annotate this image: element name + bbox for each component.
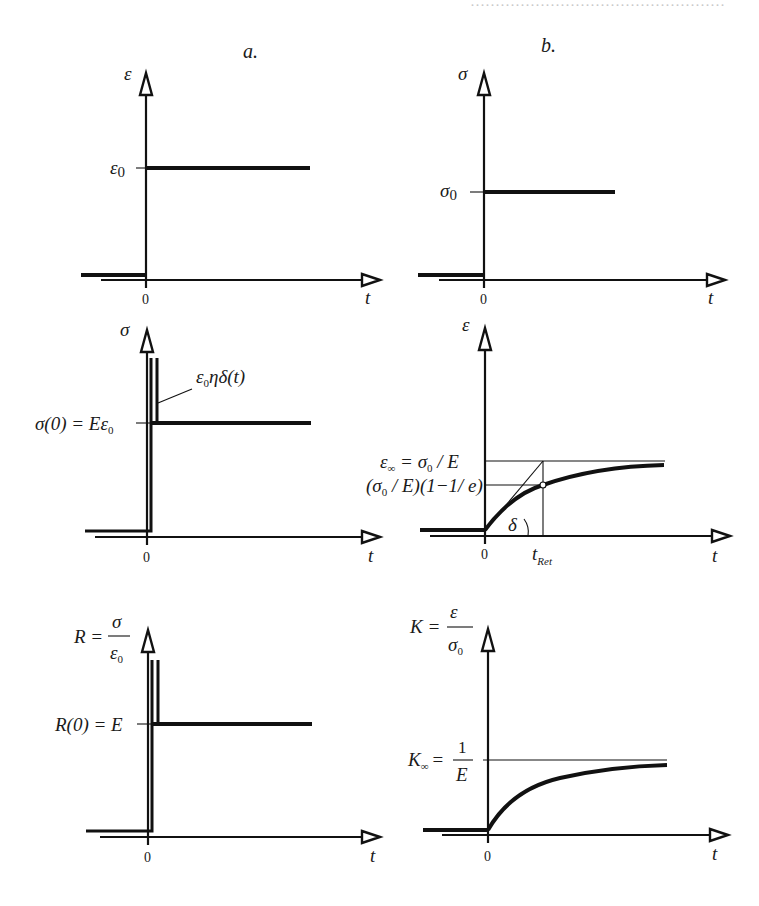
y-axis-arrow-icon xyxy=(482,629,494,651)
panel-b3-creep-compliance: K = ε σ0 K∞= 1 E 0 t xyxy=(407,601,728,864)
y-axis-label-left: K = xyxy=(409,616,440,637)
origin-label: 0 xyxy=(144,850,151,865)
x-axis-label: t xyxy=(365,287,371,308)
asymptote-label: ε∞ = σ0 / E xyxy=(380,451,459,474)
x-axis-arrow-icon xyxy=(362,531,380,543)
level-label: σ0 xyxy=(440,180,457,203)
compliance-curve xyxy=(488,765,667,830)
impulse-label: ε0ηδ(t) xyxy=(196,366,245,389)
y-axis-arrow-icon xyxy=(140,73,152,95)
x-axis-arrow-icon xyxy=(712,530,730,542)
y-axis-label: σ xyxy=(120,319,130,340)
y-axis-label-numerator: ε xyxy=(450,601,458,622)
x-axis-label: t xyxy=(708,287,714,308)
column-label-b: b. xyxy=(541,34,556,56)
asymptote-numerator: 1 xyxy=(458,738,467,757)
impulse-spike-left xyxy=(85,358,151,531)
impulse-leader-line xyxy=(158,389,192,403)
y-axis-label-denominator: σ0 xyxy=(448,634,463,657)
impulse-spike-left xyxy=(86,660,152,831)
y-axis-arrow-icon xyxy=(142,630,154,652)
panel-b1-stress-input: σ σ0 0 t xyxy=(418,63,725,308)
x-axis-label: t xyxy=(712,843,718,864)
y-axis-label-denominator: ε0 xyxy=(110,642,124,665)
level-label: R(0) = E xyxy=(54,714,123,736)
retardation-level-label: (σ0 / E)(1−1/ e) xyxy=(366,475,483,498)
y-axis-arrow-icon xyxy=(478,73,490,95)
y-axis-label-left: R = xyxy=(73,626,103,647)
origin-label: 0 xyxy=(143,550,150,565)
x-axis-arrow-icon xyxy=(362,831,380,843)
angle-arc xyxy=(524,519,528,536)
level-label: ε0 xyxy=(110,157,125,180)
x-axis-label: t xyxy=(370,845,376,866)
panel-a2-stress-response: σ σ(0) = Eε0 ε0ηδ(t) 0 t xyxy=(35,319,380,566)
origin-label: 0 xyxy=(481,547,488,562)
angle-label: δ xyxy=(508,514,518,535)
impulse-spike-right-and-plateau xyxy=(158,660,312,724)
y-axis-label: σ xyxy=(458,63,468,84)
panel-b2-creep-response: ε ε∞ = σ0 / E (σ0 / E)(1−1/ e) δ 0 tRet … xyxy=(366,314,730,567)
panel-a3-relaxation-function: R = σ ε0 R(0) = E 0 t xyxy=(54,611,380,866)
x-axis-arrow-icon xyxy=(362,274,380,286)
y-axis-label: ε xyxy=(124,63,132,84)
t-ret-label: tRet xyxy=(532,543,553,567)
origin-label: 0 xyxy=(484,849,491,864)
retardation-point xyxy=(540,482,546,488)
column-label-a: a. xyxy=(243,40,258,62)
panel-a1-strain-input: ε ε0 0 t xyxy=(81,63,380,308)
cropped-page-text: …………………………………………… xyxy=(470,0,725,9)
asymptote-denominator: E xyxy=(455,764,468,785)
y-axis-label-numerator: σ xyxy=(112,611,122,632)
y-axis-arrow-icon xyxy=(141,330,153,352)
origin-label: 0 xyxy=(142,292,149,307)
x-axis-label: t xyxy=(712,545,718,566)
y-axis-label: ε xyxy=(462,314,470,335)
origin-label: 0 xyxy=(480,292,487,307)
level-label: σ(0) = Eε0 xyxy=(35,413,114,436)
x-axis-arrow-icon xyxy=(710,829,728,841)
y-axis-arrow-icon xyxy=(479,328,491,350)
x-axis-arrow-icon xyxy=(707,274,725,286)
x-axis-label: t xyxy=(368,545,374,566)
viscoelastic-diagram: …………………………………………… a. b. ε ε0 0 t σ σ0 0 … xyxy=(0,0,759,906)
asymptote-label: K∞= xyxy=(407,749,443,772)
